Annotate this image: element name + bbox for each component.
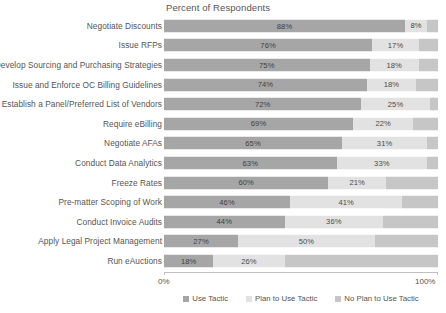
bar-value-label: 69% <box>251 120 267 128</box>
bar-track: 27%50% <box>164 235 438 248</box>
bar-value-label: 60% <box>238 179 254 187</box>
category-label: Develop Sourcing and Purchasing Strategi… <box>0 60 162 70</box>
bar-track: 65%31% <box>164 137 438 150</box>
bar-value-label: 46% <box>219 198 235 206</box>
bar-value-label: 75% <box>259 61 275 69</box>
bar-value-label: 76% <box>260 42 276 50</box>
bar-segment <box>285 254 438 267</box>
bar-value-label: 63% <box>243 159 259 167</box>
bar-value-label: 65% <box>245 140 261 148</box>
bar-value-label: 41% <box>338 198 354 206</box>
bar-track: 44%36% <box>164 215 438 228</box>
bar-value-label: 18% <box>386 61 402 69</box>
bar-value-label: 22% <box>375 120 391 128</box>
bar-value-label: 88% <box>277 22 293 30</box>
bar-value-label: 33% <box>374 159 390 167</box>
bar-segment <box>416 78 438 91</box>
chart-legend: Use TacticPlan to Use TacticNo Plan to U… <box>164 294 438 303</box>
bar-track: 75%18% <box>164 58 438 71</box>
category-label: Conduct Data Analytics <box>75 158 162 168</box>
bar-segment: 41% <box>290 196 402 209</box>
bar-segment: 50% <box>238 235 375 248</box>
bar-row: Establish a Panel/Preferred List of Vend… <box>0 94 446 114</box>
bar-track: 69%22% <box>164 117 438 130</box>
legend-item[interactable]: No Plan to Use Tactic <box>335 294 418 303</box>
legend-swatch-icon <box>183 296 189 302</box>
bar-track: 63%33% <box>164 156 438 169</box>
bar-segment <box>419 58 438 71</box>
bar-value-label: 26% <box>241 257 257 265</box>
x-axis-label-max: 100% <box>415 277 435 286</box>
x-axis-line <box>164 272 438 273</box>
bar-value-label: 74% <box>258 81 274 89</box>
bar-value-label: 50% <box>299 238 315 246</box>
category-label: Issue and Enforce OC Billing Guidelines <box>12 80 162 90</box>
legend-swatch-icon <box>335 296 341 302</box>
bar-segment: 63% <box>164 156 337 169</box>
bar-row: Negotiate AFAs65%31% <box>0 134 446 154</box>
category-label: Apply Legal Project Management <box>38 236 162 246</box>
plot-area: Negotiate Discounts88%8%Issue RFPs76%17%… <box>0 16 446 272</box>
bar-segment: 36% <box>285 215 384 228</box>
bar-value-label: 25% <box>388 100 404 108</box>
chart-title: Percent of Respondents <box>166 2 270 13</box>
x-axis-tick-0 <box>164 272 165 275</box>
category-label: Negotiate Discounts <box>87 21 162 31</box>
bar-value-label: 36% <box>326 218 342 226</box>
category-label: Run eAuctions <box>107 256 162 266</box>
bar-value-label: 18% <box>384 81 400 89</box>
category-label: Require eBilling <box>103 119 162 129</box>
bar-track: 74%18% <box>164 78 438 91</box>
category-label: Conduct Invoice Audits <box>76 217 162 227</box>
bar-row: Run eAuctions18%26% <box>0 251 446 271</box>
bar-row: Apply Legal Project Management27%50% <box>0 232 446 252</box>
bar-segment: 18% <box>370 58 419 71</box>
bar-value-label: 8% <box>410 22 421 30</box>
legend-item[interactable]: Plan to Use Tactic <box>246 294 317 303</box>
x-axis-tick-100 <box>437 272 438 275</box>
bar-segment: 25% <box>361 98 430 111</box>
bar-value-label: 44% <box>217 218 233 226</box>
legend-label: Use Tactic <box>192 294 228 303</box>
bar-segment <box>427 137 438 150</box>
bar-row: Conduct Data Analytics63%33% <box>0 153 446 173</box>
x-axis-label-min: 0% <box>158 277 170 286</box>
bar-value-label: 31% <box>377 140 393 148</box>
bar-segment: 22% <box>353 117 413 130</box>
bar-value-label: 17% <box>388 42 404 50</box>
category-label: Freeze Rates <box>112 178 162 188</box>
bar-track: 76%17% <box>164 39 438 52</box>
bar-segment <box>383 215 438 228</box>
bar-segment: 31% <box>342 137 427 150</box>
legend-label: No Plan to Use Tactic <box>344 294 418 303</box>
bar-segment: 75% <box>164 58 370 71</box>
bar-segment: 18% <box>367 78 416 91</box>
bar-row: Pre-matter Scoping of Work46%41% <box>0 192 446 212</box>
bar-track: 46%41% <box>164 196 438 209</box>
bar-segment <box>402 196 438 209</box>
bar-row: Develop Sourcing and Purchasing Strategi… <box>0 55 446 75</box>
legend-label: Plan to Use Tactic <box>255 294 317 303</box>
bar-segment: 21% <box>328 176 386 189</box>
bar-segment: 69% <box>164 117 353 130</box>
category-label: Negotiate AFAs <box>104 138 162 148</box>
bar-segment <box>430 98 438 111</box>
bar-track: 60%21% <box>164 176 438 189</box>
bar-segment: 44% <box>164 215 285 228</box>
legend-item[interactable]: Use Tactic <box>183 294 228 303</box>
bar-segment: 46% <box>164 196 290 209</box>
bar-segment: 26% <box>213 254 284 267</box>
category-label: Establish a Panel/Preferred List of Vend… <box>2 99 162 109</box>
bar-value-label: 18% <box>181 257 197 265</box>
bar-segment: 60% <box>164 176 328 189</box>
bar-segment: 74% <box>164 78 367 91</box>
bar-segment <box>427 19 438 32</box>
bar-row: Require eBilling69%22% <box>0 114 446 134</box>
bar-row: Issue and Enforce OC Billing Guidelines7… <box>0 75 446 95</box>
bar-row: Freeze Rates60%21% <box>0 173 446 193</box>
bar-value-label: 21% <box>349 179 365 187</box>
bar-segment <box>375 235 438 248</box>
bar-track: 88% <box>164 19 438 32</box>
bar-segment: 33% <box>337 156 427 169</box>
category-label: Issue RFPs <box>119 40 162 50</box>
